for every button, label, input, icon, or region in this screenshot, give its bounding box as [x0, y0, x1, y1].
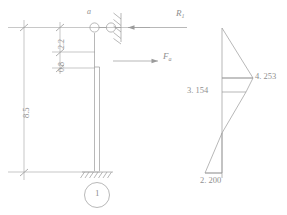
force-label-R1: R1 — [176, 9, 185, 19]
support-wall-hatching — [114, 13, 122, 44]
bmd-lower-lobe — [205, 133, 222, 173]
dim-label-upper-segment: 2.2 — [58, 39, 66, 49]
bmd-value-2200: 2. 200 — [200, 176, 221, 185]
diagram-svg — [0, 0, 287, 215]
bmd-transition-edge — [222, 78, 253, 133]
bmd-value-4253: 4. 253 — [255, 72, 276, 81]
bmd-upper-lobe — [222, 28, 253, 78]
dim-label-total-height: 8.5 — [22, 107, 31, 118]
figure-canvas: a R1 Fa 8.5 2.2 0.8 4. 253 3. 154 2. 200… — [0, 0, 287, 215]
dim-label-lower-segment: 0.8 — [58, 62, 66, 72]
point-label-a: a — [87, 8, 91, 16]
force-Fa-arrowhead — [152, 59, 159, 64]
bmd-value-3154: 3. 154 — [187, 86, 208, 95]
force-label-Fa: Fa — [163, 52, 172, 62]
force-subscript-1: 1 — [182, 13, 185, 19]
base-hatching — [81, 172, 112, 178]
figure-number-label: 1 — [95, 189, 100, 198]
force-R1-arrowhead — [128, 25, 135, 30]
force-subscript-a: a — [169, 56, 172, 62]
